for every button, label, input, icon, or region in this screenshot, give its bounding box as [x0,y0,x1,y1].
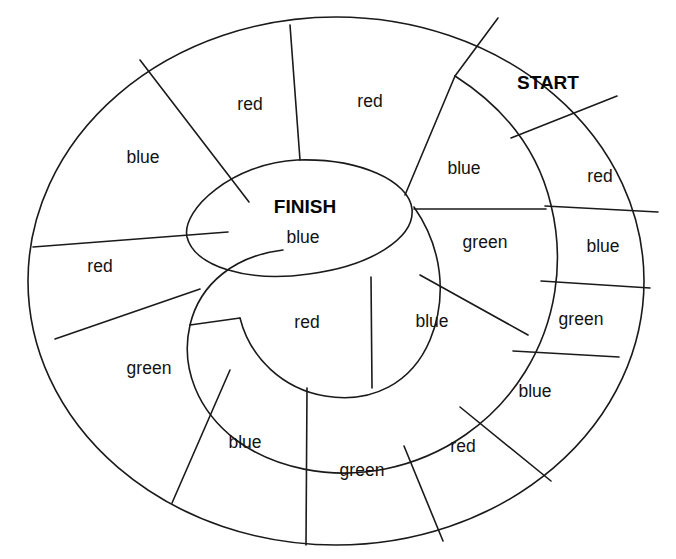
cell-label-outer-blue-4: blue [126,147,159,167]
divider-green-blue-lowerright [513,351,619,357]
cell-label-outer-green-1: green [559,309,604,329]
cell-label-outer-red-2: red [450,436,475,456]
cell-label-inner-red-1: red [294,312,319,332]
cell-label-outer-blue-2: blue [518,381,551,401]
divider-inner-red-trailing [190,318,240,325]
cell-label-outer-blue-3: blue [228,432,261,452]
cell-label-outer-red-1: red [587,166,612,186]
divider-blue-green-right [541,281,650,288]
divider-blue-red-upperleft [140,60,249,202]
cell-label-inner-blue-1: blue [447,158,480,178]
finish-center-ellipse [187,160,413,277]
divider-start-leading [455,18,498,76]
divider-green-blue-bottom [306,388,307,545]
cell-label-outer-red-5: red [357,91,382,111]
cell-label-outer-green-3: green [127,358,172,378]
divider-blue-green-lowerleft [172,370,230,503]
divider-red-blue-left [33,232,228,247]
spiral-inner-arc [240,207,440,398]
cell-label-start: START [517,72,579,93]
divider-red-blue-right [545,206,658,212]
finish-title-label: FINISH [274,196,336,217]
divider-green-red-left [55,289,200,339]
cell-label-outer-red-3: red [87,256,112,276]
board-svg: START red blue green blue red green blue… [0,0,676,559]
finish-color-label: blue [286,227,319,247]
spiral-board-game: START red blue green blue red green blue… [0,0,676,559]
spiral-outer-arc [187,76,557,473]
cell-labels: START red blue green blue red green blue… [87,72,619,480]
cell-label-outer-green-2: green [340,460,385,480]
divider-start-red [511,96,617,138]
divider-inner-blue-red [371,277,372,388]
cell-label-outer-red-4: red [237,94,262,114]
cell-label-outer-blue-1: blue [586,236,619,256]
divider-red-red-top [290,25,300,160]
cell-label-inner-blue-2: blue [415,311,448,331]
cell-label-inner-green-1: green [463,232,508,252]
divider-red-green-bottom [404,446,443,541]
